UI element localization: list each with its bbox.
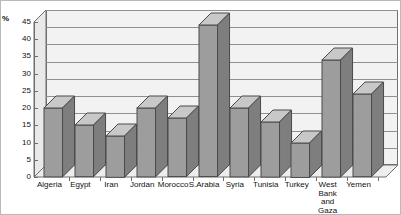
bar-3d	[261, 110, 292, 177]
bar-column	[106, 124, 125, 177]
y-axis-tick-label: 10	[5, 139, 31, 147]
bar-3d	[199, 13, 230, 177]
bar-3d	[291, 131, 322, 177]
y-axis-tick	[34, 177, 38, 178]
x-axis: AlgeriaEgyptIranJordanMoroccoS.ArabiaSyr…	[34, 181, 386, 214]
bar-column	[353, 82, 372, 177]
bar-3d	[75, 113, 106, 177]
bar-column	[199, 13, 218, 177]
bar-column	[44, 96, 63, 177]
y-axis-line	[34, 22, 35, 177]
bar-3d	[322, 48, 353, 177]
y-axis-tick-label: 15	[5, 121, 31, 129]
bar-3d	[168, 106, 199, 177]
bar-column	[168, 106, 187, 177]
bar-column	[137, 96, 156, 177]
y-axis-tick-label: 20	[5, 104, 31, 112]
bar-3d	[106, 124, 137, 177]
bar-3d	[44, 96, 75, 177]
y-axis-tick-label: 40	[5, 35, 31, 43]
bar-column	[322, 48, 341, 177]
bar-series	[34, 22, 386, 177]
gridline	[46, 10, 398, 11]
bar-column	[75, 113, 94, 177]
y-axis-tick-label: 35	[5, 52, 31, 60]
y-axis: % 051015202530354045	[1, 1, 31, 214]
y-axis-tick-label: 30	[5, 70, 31, 78]
y-axis-tick-label: 5	[5, 156, 31, 164]
y-axis-tick-label: 45	[5, 18, 31, 26]
bar-3d	[230, 96, 261, 177]
bar-3d	[137, 96, 168, 177]
x-axis-tick	[378, 177, 379, 181]
bar-column	[291, 131, 310, 177]
bar-column	[230, 96, 249, 177]
x-axis-tick-label: Yemen	[339, 181, 378, 190]
bar-3d	[353, 82, 384, 177]
y-axis-tick-label: 25	[5, 87, 31, 95]
bar-column	[261, 110, 280, 177]
chart-figure: % 051015202530354045 AlgeriaEgyptIranJor…	[0, 0, 401, 215]
y-axis-tick-label: 0	[5, 173, 31, 181]
